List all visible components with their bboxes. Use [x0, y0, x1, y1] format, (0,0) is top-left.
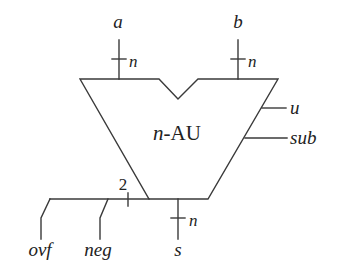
input-a-width-label: n: [129, 52, 138, 71]
au-label-suffix: -AU: [164, 121, 201, 145]
diagram-svg: n-AU a n b n u sub 2 ovf neg s n: [0, 0, 342, 278]
arithmetic-unit-diagram: n-AU a n b n u sub 2 ovf neg s n: [0, 0, 342, 278]
au-label-prefix: n: [153, 121, 164, 145]
input-b-width-label: n: [248, 52, 257, 71]
output-ovf-wire: [41, 199, 50, 239]
output-ovf-label: ovf: [28, 239, 54, 260]
input-a-label: a: [113, 11, 123, 32]
output-neg-wire: [100, 199, 108, 239]
au-block-label: n-AU: [153, 121, 201, 145]
flags-bus-width-label: 2: [119, 175, 128, 194]
control-sub-label: sub: [290, 127, 316, 148]
input-b-label: b: [233, 11, 243, 32]
output-s-label: s: [174, 239, 181, 260]
control-u-label: u: [290, 97, 300, 118]
output-s-width-label: n: [189, 211, 198, 230]
output-neg-label: neg: [84, 239, 111, 260]
